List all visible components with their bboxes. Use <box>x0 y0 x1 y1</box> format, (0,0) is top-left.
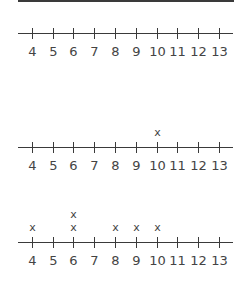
tick-label: 13 <box>208 159 232 173</box>
tick-mark <box>219 28 220 39</box>
tick-mark <box>73 142 74 153</box>
tick-mark <box>94 237 95 248</box>
tick-mark <box>219 142 220 153</box>
tick-mark <box>198 237 199 248</box>
tick-mark <box>53 142 54 153</box>
number-line <box>18 147 233 148</box>
tick-mark <box>94 142 95 153</box>
x-marker: x <box>152 222 164 234</box>
tick-mark <box>198 28 199 39</box>
tick-mark <box>177 28 178 39</box>
tick-mark <box>53 237 54 248</box>
number-line <box>18 33 233 34</box>
tick-label: 13 <box>208 45 232 59</box>
x-marker: x <box>152 127 164 139</box>
tick-mark <box>32 142 33 153</box>
x-marker: x <box>68 209 80 221</box>
tick-mark <box>157 237 158 248</box>
tick-mark <box>136 142 137 153</box>
tick-mark <box>53 28 54 39</box>
tick-mark <box>136 28 137 39</box>
x-marker: x <box>131 222 143 234</box>
tick-mark <box>32 237 33 248</box>
tick-mark <box>115 28 116 39</box>
number-line <box>18 242 233 243</box>
tick-mark <box>94 28 95 39</box>
tick-label: 13 <box>208 254 232 268</box>
tick-mark <box>32 28 33 39</box>
tick-mark <box>157 142 158 153</box>
tick-mark <box>136 237 137 248</box>
x-marker: x <box>27 222 39 234</box>
tick-mark <box>219 237 220 248</box>
tick-mark <box>177 237 178 248</box>
tick-mark <box>115 237 116 248</box>
tick-mark <box>198 142 199 153</box>
x-marker: x <box>110 222 122 234</box>
top-rule <box>18 0 234 2</box>
x-marker: x <box>68 222 80 234</box>
tick-mark <box>73 237 74 248</box>
tick-mark <box>157 28 158 39</box>
tick-mark <box>115 142 116 153</box>
tick-mark <box>177 142 178 153</box>
tick-mark <box>73 28 74 39</box>
